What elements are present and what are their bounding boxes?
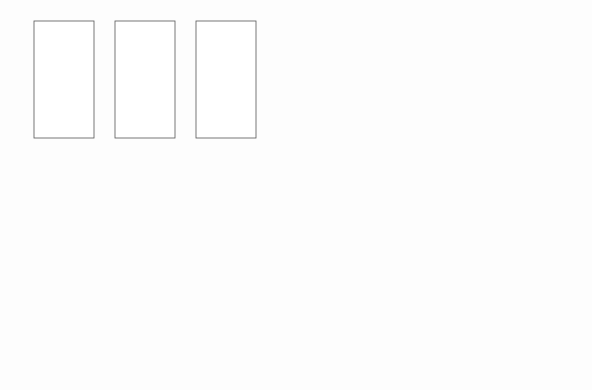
f422-frames xyxy=(34,21,256,138)
definitive-page xyxy=(0,0,592,390)
